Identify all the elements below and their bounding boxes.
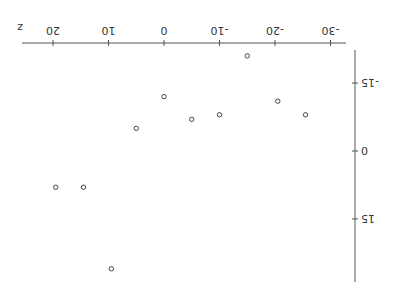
rotated-chart: -30-20-1001020z-15015 <box>0 0 394 296</box>
data-point-marker <box>81 185 85 189</box>
data-point-marker <box>54 185 58 189</box>
x-tick-label: 10 <box>102 24 116 37</box>
x-tick-label: 0 <box>161 24 168 37</box>
scatter-plot: -30-20-1001020z-15015 <box>0 0 394 296</box>
y-tick-label: 0 <box>361 144 368 157</box>
data-point-marker <box>162 94 166 98</box>
x-axis-title: z <box>17 21 23 34</box>
y-tick-label: 15 <box>361 212 375 225</box>
x-tick-label: 20 <box>46 24 60 37</box>
data-point-marker <box>109 267 113 271</box>
y-tick-label: -15 <box>361 76 379 89</box>
data-point-marker <box>134 126 138 130</box>
data-point-marker <box>190 117 194 121</box>
data-point-marker <box>303 113 307 117</box>
x-tick-label: -20 <box>266 24 284 37</box>
x-tick-label: -30 <box>322 24 340 37</box>
data-point-marker <box>217 113 221 117</box>
data-point-marker <box>245 54 249 58</box>
x-tick-label: -10 <box>211 24 229 37</box>
data-point-marker <box>276 99 280 103</box>
